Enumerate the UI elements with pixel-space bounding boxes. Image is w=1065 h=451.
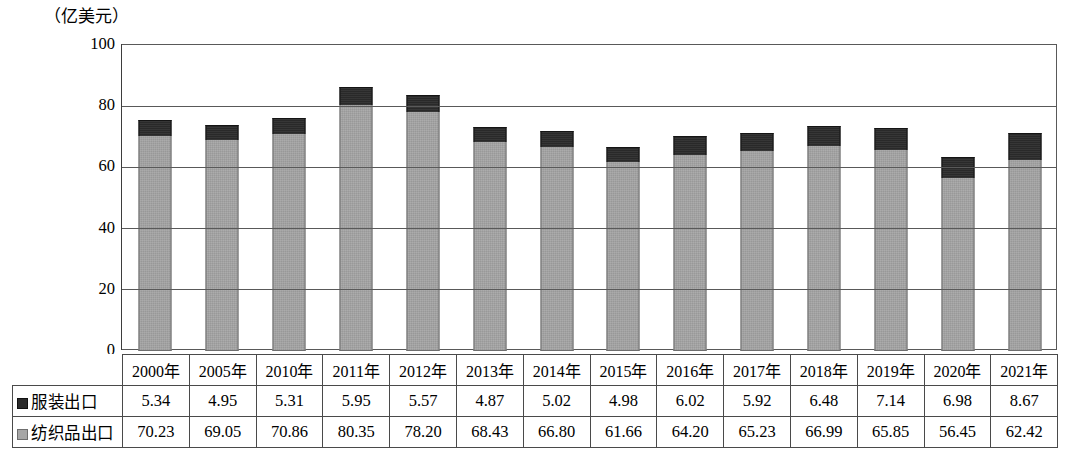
bar-segment-apparel <box>741 133 774 151</box>
table-header-year: 2021年 <box>991 355 1058 386</box>
stacked-bar <box>607 147 640 351</box>
bar-group <box>924 45 991 351</box>
table-header-year: 2015年 <box>590 355 657 386</box>
table-cell: 78.20 <box>390 417 457 448</box>
table-cell: 5.31 <box>256 386 323 417</box>
bar-segment-textile <box>741 151 774 351</box>
y-tick-label: 80 <box>69 97 115 114</box>
bar-segment-textile <box>807 146 840 351</box>
table-cell: 68.43 <box>456 417 523 448</box>
dark-square-legend-icon <box>17 398 28 409</box>
bars-layer <box>122 45 1058 351</box>
stacked-bar <box>473 127 506 351</box>
table-header-year: 2020年 <box>924 355 991 386</box>
bar-segment-apparel <box>406 95 439 112</box>
stacked-bar <box>406 95 439 351</box>
bar-segment-apparel <box>339 87 372 105</box>
table-cell: 80.35 <box>323 417 390 448</box>
table-cell: 6.48 <box>790 386 857 417</box>
bar-group <box>456 45 523 351</box>
table-cell: 65.23 <box>724 417 791 448</box>
table-header-corner-blank <box>13 355 123 386</box>
table-row-label-text: 纺织品出口 <box>31 424 114 443</box>
bar-segment-apparel <box>473 127 506 142</box>
table-cell: 66.80 <box>523 417 590 448</box>
table-cell: 56.45 <box>924 417 991 448</box>
data-table: 2000年2005年2010年2011年2012年2013年2014年2015年… <box>12 354 1058 448</box>
stacked-bar <box>540 131 573 351</box>
table-cell: 65.85 <box>857 417 924 448</box>
table-cell: 69.05 <box>189 417 256 448</box>
bar-segment-textile <box>1008 160 1041 351</box>
bar-segment-apparel <box>139 120 172 136</box>
table-cell: 61.66 <box>590 417 657 448</box>
table-header-year: 2000年 <box>123 355 190 386</box>
table-cell: 4.87 <box>456 386 523 417</box>
bar-segment-textile <box>941 178 974 351</box>
stacked-bar <box>273 118 306 351</box>
table-cell: 64.20 <box>657 417 724 448</box>
table-header-row: 2000年2005年2010年2011年2012年2013年2014年2015年… <box>13 355 1058 386</box>
bar-segment-apparel <box>674 136 707 154</box>
bar-segment-textile <box>406 112 439 351</box>
table-cell: 5.02 <box>523 386 590 417</box>
bar-group <box>991 45 1058 351</box>
table-cell: 6.98 <box>924 386 991 417</box>
bar-group <box>724 45 791 351</box>
bar-segment-apparel <box>807 126 840 146</box>
table-header-year: 2012年 <box>390 355 457 386</box>
bar-group <box>389 45 456 351</box>
table-header-year: 2011年 <box>323 355 390 386</box>
table-header-year: 2005年 <box>189 355 256 386</box>
table-cell: 5.95 <box>323 386 390 417</box>
table-header-year: 2016年 <box>657 355 724 386</box>
table-cell: 8.67 <box>991 386 1058 417</box>
table-header-year: 2010年 <box>256 355 323 386</box>
bar-segment-apparel <box>607 147 640 162</box>
table-cell: 5.92 <box>724 386 791 417</box>
table-header-year: 2013年 <box>456 355 523 386</box>
y-tick-label: 60 <box>69 158 115 175</box>
gray-square-legend-icon <box>17 429 28 440</box>
table-header-year: 2014年 <box>523 355 590 386</box>
y-axis-unit-label: （亿美元） <box>44 2 129 27</box>
table-row: 纺织品出口70.2369.0570.8680.3578.2068.4366.80… <box>13 417 1058 448</box>
bar-segment-apparel <box>206 125 239 140</box>
table-body: 服装出口5.344.955.315.955.574.875.024.986.02… <box>13 386 1058 448</box>
stacked-bar <box>139 120 172 351</box>
table-header-year: 2018年 <box>790 355 857 386</box>
bar-group <box>523 45 590 351</box>
stacked-bar <box>674 136 707 351</box>
stacked-bar <box>807 126 840 351</box>
bar-segment-textile <box>874 150 907 352</box>
gridline-80 <box>122 106 1056 107</box>
bar-segment-apparel <box>273 118 306 134</box>
table-header-year: 2017年 <box>724 355 791 386</box>
bar-group <box>791 45 858 351</box>
bar-segment-apparel <box>1008 133 1041 160</box>
bar-group <box>857 45 924 351</box>
stacked-bar <box>206 125 239 351</box>
y-axis-line <box>121 44 122 350</box>
table-cell: 7.14 <box>857 386 924 417</box>
chart-page: （亿美元） 020406080100 2000年2005年2010年2011年2… <box>0 0 1065 451</box>
gridline-60 <box>122 167 1056 168</box>
plot-area <box>121 44 1057 350</box>
bar-segment-textile <box>206 140 239 351</box>
table-row-label: 服装出口 <box>13 386 123 417</box>
y-tick-label: 20 <box>69 281 115 298</box>
table-cell: 70.86 <box>256 417 323 448</box>
bar-segment-apparel <box>540 131 573 146</box>
bar-segment-textile <box>139 136 172 351</box>
table-cell: 6.02 <box>657 386 724 417</box>
table-cell: 5.34 <box>123 386 190 417</box>
gridline-40 <box>122 228 1056 229</box>
table-cell: 62.42 <box>991 417 1058 448</box>
bar-group <box>323 45 390 351</box>
y-tick-label: 100 <box>69 36 115 53</box>
bar-group <box>590 45 657 351</box>
bar-group <box>122 45 189 351</box>
table-row-label: 纺织品出口 <box>13 417 123 448</box>
bar-segment-textile <box>674 155 707 351</box>
table-cell: 5.57 <box>390 386 457 417</box>
